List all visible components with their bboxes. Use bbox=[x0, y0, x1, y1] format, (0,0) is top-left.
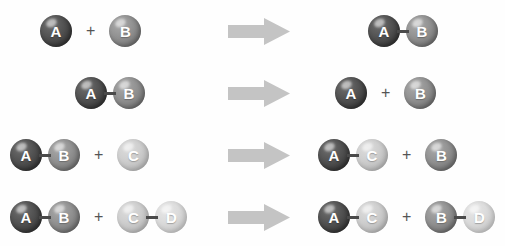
atom-d: D bbox=[463, 201, 495, 233]
atom-b: B bbox=[406, 15, 438, 47]
atom-b: B bbox=[109, 15, 141, 47]
atom-label: A bbox=[329, 148, 340, 163]
molecule-a: A bbox=[40, 15, 72, 47]
molecule-ab: AB bbox=[10, 201, 80, 233]
molecule-c: C bbox=[117, 139, 149, 171]
products: AB bbox=[300, 0, 505, 62]
reaction-arrow-icon bbox=[228, 18, 290, 45]
atom-label: B bbox=[436, 148, 447, 163]
products: A+B bbox=[300, 62, 505, 124]
atom-label: B bbox=[59, 210, 70, 225]
molecule-b: B bbox=[404, 77, 436, 109]
reaction-row-synthesis: A+BAB bbox=[0, 0, 505, 62]
reactants: AB bbox=[0, 62, 215, 124]
atom-b: B bbox=[425, 201, 457, 233]
atom-label: D bbox=[474, 210, 485, 225]
atom-a: A bbox=[318, 139, 350, 171]
molecule-ab: AB bbox=[75, 77, 145, 109]
atom-b: B bbox=[113, 77, 145, 109]
atom-a: A bbox=[40, 15, 72, 47]
atom-label: B bbox=[124, 86, 135, 101]
chemical-bond bbox=[39, 154, 51, 157]
atom-b: B bbox=[404, 77, 436, 109]
atom-label: C bbox=[367, 148, 378, 163]
atom-label: B bbox=[417, 24, 428, 39]
atom-label: A bbox=[51, 24, 62, 39]
reaction-arrow-icon bbox=[228, 204, 290, 231]
atom-a: A bbox=[368, 15, 400, 47]
chemical-bond bbox=[146, 216, 158, 219]
atom-d: D bbox=[155, 201, 187, 233]
reactants: A+B bbox=[0, 0, 215, 62]
atom-label: B bbox=[59, 148, 70, 163]
atom-label: B bbox=[436, 210, 447, 225]
atom-label: A bbox=[86, 86, 97, 101]
atom-label: A bbox=[21, 210, 32, 225]
reaction-row-decomposition: ABA+B bbox=[0, 62, 505, 124]
reactants: AB+CD bbox=[0, 186, 215, 246]
reaction-row-double-displacement: AB+CDAC+BD bbox=[0, 186, 505, 246]
atom-label: B bbox=[120, 24, 131, 39]
chemical-reaction-diagram: A+BABABA+BAB+CAC+BAB+CDAC+BD bbox=[0, 0, 505, 246]
plus-sign: + bbox=[86, 23, 95, 39]
plus-sign: + bbox=[402, 147, 411, 163]
atom-label: C bbox=[128, 210, 139, 225]
atom-a: A bbox=[10, 139, 42, 171]
reactants: AB+C bbox=[0, 124, 215, 186]
molecule-ac: AC bbox=[318, 139, 388, 171]
molecule-ac: AC bbox=[318, 201, 388, 233]
molecule-b: B bbox=[425, 139, 457, 171]
molecule-ab: AB bbox=[10, 139, 80, 171]
atom-label: A bbox=[346, 86, 357, 101]
plus-sign: + bbox=[94, 209, 103, 225]
atom-label: D bbox=[166, 210, 177, 225]
reaction-arrow-icon bbox=[228, 80, 290, 107]
chemical-bond bbox=[397, 30, 409, 33]
atom-b: B bbox=[48, 139, 80, 171]
chemical-bond bbox=[347, 216, 359, 219]
products: AC+B bbox=[300, 124, 505, 186]
atom-a: A bbox=[75, 77, 107, 109]
atom-a: A bbox=[335, 77, 367, 109]
atom-c: C bbox=[117, 139, 149, 171]
atom-label: A bbox=[21, 148, 32, 163]
atom-label: C bbox=[128, 148, 139, 163]
atom-a: A bbox=[10, 201, 42, 233]
molecule-a: A bbox=[335, 77, 367, 109]
atom-b: B bbox=[425, 139, 457, 171]
molecule-b: B bbox=[109, 15, 141, 47]
atom-label: C bbox=[367, 210, 378, 225]
plus-sign: + bbox=[94, 147, 103, 163]
atom-c: C bbox=[117, 201, 149, 233]
atom-b: B bbox=[48, 201, 80, 233]
plus-sign: + bbox=[381, 85, 390, 101]
molecule-cd: CD bbox=[117, 201, 187, 233]
atom-label: A bbox=[329, 210, 340, 225]
plus-sign: + bbox=[402, 209, 411, 225]
reaction-row-single-displacement: AB+CAC+B bbox=[0, 124, 505, 186]
molecule-bd: BD bbox=[425, 201, 495, 233]
atom-label: A bbox=[379, 24, 390, 39]
chemical-bond bbox=[39, 216, 51, 219]
reaction-arrow-icon bbox=[228, 142, 290, 169]
chemical-bond bbox=[104, 92, 116, 95]
atom-c: C bbox=[356, 139, 388, 171]
atom-label: B bbox=[415, 86, 426, 101]
atom-c: C bbox=[356, 201, 388, 233]
chemical-bond bbox=[347, 154, 359, 157]
chemical-bond bbox=[454, 216, 466, 219]
molecule-ab: AB bbox=[368, 15, 438, 47]
atom-a: A bbox=[318, 201, 350, 233]
products: AC+BD bbox=[300, 186, 505, 246]
